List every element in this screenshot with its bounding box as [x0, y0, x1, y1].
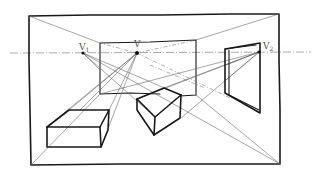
left-box — [47, 110, 109, 147]
vanishing-point-v2 — [257, 50, 260, 53]
vanishing-point-v — [135, 51, 139, 55]
construction-line — [83, 53, 280, 164]
edge-bottom-left — [31, 94, 100, 165]
construction-line — [83, 53, 100, 70]
construction-line — [83, 53, 155, 117]
edge-bottom-right — [196, 95, 280, 164]
construction-line — [226, 52, 259, 65]
back-wall — [100, 40, 196, 96]
label-v: V — [133, 39, 141, 49]
room-frame — [29, 14, 280, 165]
label-v1: V1 — [78, 42, 89, 53]
construction-line — [100, 52, 259, 94]
label-v2: V2 — [262, 41, 274, 52]
construction-dash — [100, 43, 137, 53]
construction-line — [109, 53, 137, 110]
construction-line — [80, 53, 137, 110]
edge-top-right — [196, 14, 279, 40]
horizon-line — [10, 52, 311, 53]
edge-top-left — [29, 16, 100, 43]
perspective-sketch: V1 V V2 — [0, 0, 319, 177]
center-box — [137, 88, 181, 135]
